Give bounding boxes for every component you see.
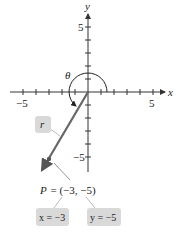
radius-callout: r — [35, 116, 60, 136]
radius-label: r — [40, 118, 45, 130]
y-value-text: y = −5 — [90, 212, 116, 223]
y-axis: y 5 −5 — [73, 0, 91, 172]
point-pointer-line — [54, 163, 70, 180]
x-tick-5: 5 — [149, 97, 155, 109]
x-callout-connector — [54, 197, 62, 208]
point-name: P — [39, 184, 47, 196]
x-axis: −5 5 x — [10, 86, 173, 109]
theta-label: θ — [65, 69, 71, 81]
point-label: P = (−3, −5) — [39, 184, 96, 197]
y-axis-label: y — [84, 0, 90, 12]
angle-theta: θ — [65, 69, 107, 106]
point-p-marker — [47, 157, 51, 161]
point-coords: = (−3, −5) — [48, 184, 96, 197]
x-value-callout: x = −3 — [36, 208, 69, 226]
x-tick-neg5: −5 — [16, 97, 28, 109]
y-tick-5: 5 — [78, 21, 84, 33]
y-tick-neg5: −5 — [73, 151, 85, 163]
y-callout-connector — [86, 197, 95, 208]
y-value-callout: y = −5 — [87, 208, 121, 226]
coordinate-diagram: −5 5 x y 5 −5 θ r — [0, 0, 181, 237]
x-axis-label: x — [167, 86, 173, 98]
x-value-text: x = −3 — [39, 212, 65, 223]
